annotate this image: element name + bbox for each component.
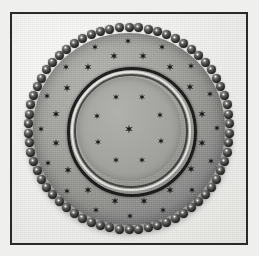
- rim-bead: [223, 148, 232, 157]
- rim-bead: [55, 197, 64, 206]
- screenshot-root: [0, 0, 259, 256]
- rim-bead: [162, 218, 171, 227]
- rim-bead: [207, 183, 216, 192]
- rim-bead: [223, 100, 232, 109]
- rim-bead: [220, 91, 229, 100]
- rim-bead: [220, 157, 229, 166]
- rim-bead: [115, 23, 124, 32]
- rim-bead: [37, 175, 46, 184]
- rim-bead: [78, 34, 87, 43]
- rim-bead: [224, 110, 233, 119]
- rim-bead: [125, 23, 134, 32]
- plate-well: [77, 77, 181, 181]
- rim-bead: [216, 82, 225, 91]
- rim-bead: [162, 30, 171, 39]
- rim-bead: [179, 209, 188, 218]
- rim-bead: [25, 138, 34, 147]
- rim-bead: [125, 225, 134, 234]
- rim-bead: [24, 119, 33, 128]
- photo-canvas: [12, 14, 246, 243]
- rim-bead: [37, 74, 46, 83]
- rim-bead: [87, 30, 96, 39]
- rim-bead: [153, 221, 162, 230]
- rim-bead: [171, 214, 180, 223]
- rim-bead: [187, 203, 196, 212]
- photo-frame: [10, 12, 248, 245]
- rim-bead: [25, 110, 34, 119]
- rim-bead: [144, 25, 153, 34]
- rim-bead: [29, 157, 38, 166]
- rim-bead: [216, 166, 225, 175]
- rim-bead: [115, 225, 124, 234]
- rim-bead: [201, 190, 210, 199]
- rim-bead: [212, 74, 221, 83]
- rim-bead: [224, 138, 233, 147]
- rim-bead: [153, 27, 162, 36]
- rim-bead: [62, 203, 71, 212]
- rim-bead: [48, 190, 57, 199]
- glass-plate: [22, 22, 236, 236]
- rim-bead: [96, 27, 105, 36]
- rim-bead: [134, 23, 143, 32]
- rim-bead: [225, 119, 234, 128]
- rim-bead: [225, 129, 234, 138]
- rim-bead: [24, 129, 33, 138]
- rim-bead: [194, 197, 203, 206]
- rim-bead: [144, 223, 153, 232]
- rim-bead: [33, 82, 42, 91]
